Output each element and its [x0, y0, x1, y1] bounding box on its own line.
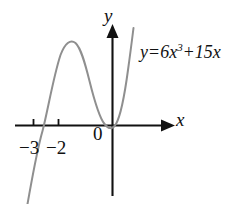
- equation-linear-variable: x: [213, 42, 221, 62]
- equation-cubic-variable: x: [169, 42, 177, 62]
- equation-cubic-exponent: 3: [177, 41, 183, 53]
- x-tick-label-neg2: −2: [46, 138, 66, 157]
- graph-canvas: [0, 0, 248, 204]
- y-axis-arrowhead: [107, 24, 119, 38]
- x-axis-label: x: [176, 110, 184, 129]
- x-axis-arrowhead: [161, 120, 175, 132]
- equation-lhs: y: [140, 42, 148, 62]
- function-graph-figure: y x 0 −3 −2 y=6x3+15x: [0, 0, 248, 204]
- y-axis-label: y: [104, 6, 112, 25]
- cubic-curve: [28, 28, 134, 204]
- x-tick-label-neg3: −3: [19, 138, 39, 157]
- equation-linear-coefficient: 15: [195, 42, 213, 62]
- equation-annotation: y=6x3+15x: [140, 42, 221, 61]
- equation-cubic-coefficient: 6: [160, 42, 169, 62]
- origin-label: 0: [93, 124, 103, 143]
- equation-plus-sign: +: [183, 42, 195, 62]
- equation-equals-sign: =: [148, 42, 160, 62]
